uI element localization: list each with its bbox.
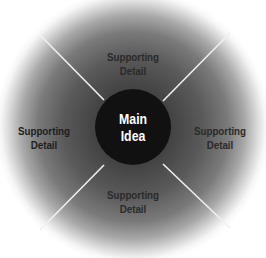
main-idea-line2: Idea [121,127,146,144]
divider-bottom-left [40,165,104,230]
label-line1: Supporting [10,124,78,138]
label-line1: Supporting [186,124,254,138]
label-line2: Detail [99,64,167,78]
divider-top-left [40,35,104,100]
supporting-detail-left: Supporting Detail [10,124,78,152]
label-line2: Detail [10,138,78,152]
main-idea-line1: Main [119,110,147,127]
supporting-detail-right: Supporting Detail [186,124,254,152]
supporting-detail-top: Supporting Detail [99,50,167,78]
divider-top-right [163,33,230,101]
label-line1: Supporting [99,188,167,202]
supporting-detail-bottom: Supporting Detail [99,188,167,216]
label-line2: Detail [99,202,167,216]
label-line2: Detail [186,138,254,152]
divider-bottom-right [163,164,230,228]
label-line1: Supporting [99,50,167,64]
main-idea-node: Main Idea [95,89,171,165]
